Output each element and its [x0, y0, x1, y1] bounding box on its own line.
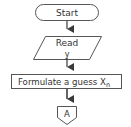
- off-page-connector-a: A: [58, 107, 77, 125]
- flowchart-canvas: Start Read y Formulate a guess Xn A: [0, 0, 131, 127]
- read-variable-label: y: [65, 50, 70, 59]
- read-label: Read: [56, 38, 79, 48]
- start-label: Start: [56, 8, 78, 18]
- connector-label: A: [64, 109, 70, 119]
- start-terminator: Start: [36, 5, 99, 21]
- read-input-parallelogram: Read y: [34, 37, 102, 60]
- process-label-main: Formulate a guess X: [18, 77, 106, 87]
- process-label-subscript: n: [106, 81, 110, 89]
- formulate-guess-process: Formulate a guess Xn: [12, 75, 122, 90]
